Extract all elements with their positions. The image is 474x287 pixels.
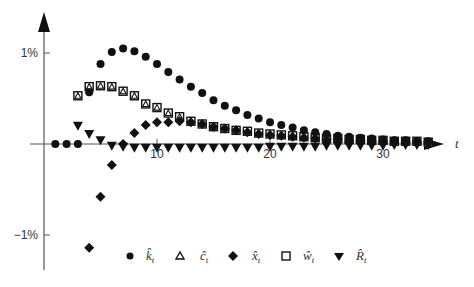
point-triangle-down-icon xyxy=(288,143,298,152)
point-triangle-down-icon xyxy=(186,144,196,153)
point-circle-icon xyxy=(142,53,150,61)
legend-label-R: R̂t xyxy=(355,248,367,265)
point-triangle-down-icon xyxy=(367,142,377,151)
impulse-response-chart: 1% −1% 10 20 30 t k̂t ĉt x̂t ŵt R̂t xyxy=(0,0,474,287)
point-circle-icon xyxy=(63,140,71,148)
point-circle-icon xyxy=(176,75,184,83)
point-triangle-down-icon xyxy=(107,142,117,151)
point-triangle-down-icon xyxy=(84,130,94,139)
point-circle-icon xyxy=(51,140,59,148)
legend-diamond-icon xyxy=(228,251,238,261)
point-diamond-icon xyxy=(107,160,117,170)
point-triangle-down-icon xyxy=(197,144,207,153)
point-triangle-down-icon xyxy=(344,142,354,151)
point-triangle-down-icon xyxy=(355,142,365,151)
point-circle-icon xyxy=(97,60,105,68)
y-tick-label-1: 1% xyxy=(21,46,39,60)
point-triangle-down-icon xyxy=(163,144,173,153)
y-tick-label-neg1: −1% xyxy=(14,228,39,242)
y-axis-arrow-icon xyxy=(38,12,50,32)
point-triangle-down-icon xyxy=(242,144,252,153)
point-circle-icon xyxy=(368,135,376,143)
point-triangle-down-icon xyxy=(299,143,309,152)
point-diamond-icon xyxy=(152,117,162,127)
point-circle-icon xyxy=(74,140,82,148)
point-triangle-down-icon xyxy=(141,144,151,153)
point-circle-icon xyxy=(266,118,274,126)
point-circle-icon xyxy=(85,88,93,96)
point-circle-icon xyxy=(255,115,263,123)
point-circle-icon xyxy=(289,124,297,132)
legend-triangle-down-icon xyxy=(334,253,344,261)
point-triangle-down-icon xyxy=(254,144,264,153)
point-diamond-icon xyxy=(129,128,139,138)
point-triangle-down-icon xyxy=(322,142,332,151)
point-circle-icon xyxy=(210,96,218,104)
legend-circle-icon xyxy=(127,253,134,260)
legend: k̂t ĉt x̂t ŵt R̂t xyxy=(127,248,367,265)
point-triangle-down-icon xyxy=(220,144,230,153)
point-triangle-down-icon xyxy=(118,143,128,152)
legend-square-icon xyxy=(282,252,290,260)
point-circle-icon xyxy=(243,111,251,119)
point-circle-icon xyxy=(108,48,116,56)
point-circle-icon xyxy=(232,106,240,114)
point-triangle-down-icon xyxy=(333,142,343,151)
point-diamond-icon xyxy=(84,243,94,253)
point-triangle-down-icon xyxy=(276,143,286,152)
point-triangle-down-icon xyxy=(310,143,320,152)
point-circle-icon xyxy=(277,121,285,129)
point-triangle-down-icon xyxy=(209,144,219,153)
point-triangle-down-icon xyxy=(129,144,139,153)
point-triangle-down-icon xyxy=(73,122,83,131)
point-circle-icon xyxy=(119,44,127,52)
point-circle-icon xyxy=(311,128,319,136)
series-c xyxy=(75,83,431,145)
point-triangle-down-icon xyxy=(175,144,185,153)
point-circle-icon xyxy=(130,47,138,55)
x-axis-label: t xyxy=(455,136,459,151)
series-w xyxy=(74,82,432,146)
point-circle-icon xyxy=(187,83,195,91)
legend-label-c: ĉt xyxy=(200,248,209,265)
point-circle-icon xyxy=(356,134,364,142)
point-diamond-icon xyxy=(163,117,173,127)
point-circle-icon xyxy=(300,126,308,134)
point-diamond-icon xyxy=(141,120,151,130)
point-circle-icon xyxy=(164,68,172,76)
point-circle-icon xyxy=(345,133,353,141)
legend-label-k: k̂t xyxy=(146,248,155,265)
legend-triangle-up-icon xyxy=(176,252,184,259)
series-k xyxy=(51,44,432,148)
point-circle-icon xyxy=(198,89,206,97)
point-circle-icon xyxy=(153,60,161,68)
point-circle-icon xyxy=(334,132,342,140)
point-circle-icon xyxy=(323,130,331,138)
point-diamond-icon xyxy=(96,192,106,202)
point-circle-icon xyxy=(221,102,229,110)
point-triangle-down-icon xyxy=(231,144,241,153)
legend-label-x: x̂t xyxy=(251,248,261,265)
legend-label-w: ŵt xyxy=(303,248,315,265)
